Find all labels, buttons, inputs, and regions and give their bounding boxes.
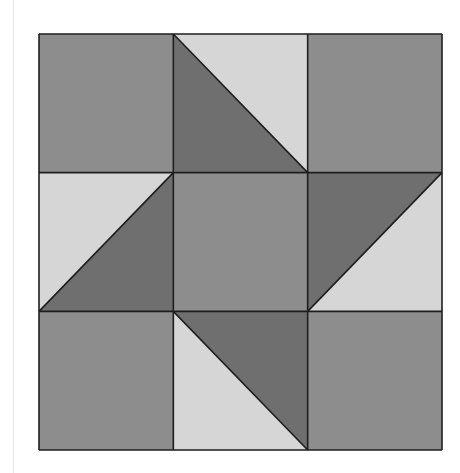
solid-square: [173, 173, 307, 312]
solid-square: [39, 34, 173, 173]
solid-square: [308, 311, 442, 450]
quilt-cell-r0c0: [39, 34, 173, 173]
quilt-cell-r2c1: [173, 311, 307, 450]
quilt-cell-r0c2: [308, 34, 442, 173]
quilt-cell-r0c1: [173, 34, 307, 173]
solid-square: [308, 34, 442, 173]
quilt-cell-r1c0: [39, 173, 173, 312]
quilt-cell-r2c2: [308, 311, 442, 450]
solid-square: [39, 311, 173, 450]
quilt-cell-r2c0: [39, 311, 173, 450]
quilt-cell-r1c2: [308, 173, 442, 312]
quilt-block-diagram: [0, 0, 460, 473]
quilt-cell-r1c1: [173, 173, 307, 312]
